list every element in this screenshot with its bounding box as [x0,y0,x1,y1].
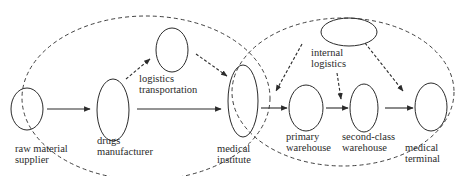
second-class-warehouse-label: second-class warehouse [342,131,395,153]
internal-label-line1: internal [311,47,346,58]
logistics-transportation-label: logistics transportation [139,73,197,95]
internal-logistics-label: internal logistics [311,47,346,69]
primary-label-line2: warehouse [286,142,331,153]
medical-institute-label: medical institute [217,143,251,165]
drugs-label-line1: drugs [97,135,153,146]
institute-label-line2: institute [217,154,251,165]
second-class-warehouse-node [350,84,378,132]
logistics-label-line1: logistics [139,73,197,84]
primary-label-line1: primary [286,131,331,142]
arrow-logistics-to-institute [196,54,227,76]
terminal-label-line1: medical [405,142,440,153]
drugs-label-line2: manufacturer [97,146,153,157]
second-label-line2: warehouse [342,142,395,153]
arrow-internal-to-terminal [365,43,403,91]
logistics-transportation-node [156,28,188,72]
internal-label-line2: logistics [311,58,346,69]
internal-logistics-node [321,18,377,46]
medical-institute-node [228,65,258,137]
raw-label-line1: raw material [15,143,68,154]
arrow-internal-to-second [337,73,341,99]
raw-material-supplier-node [11,88,43,130]
arrow-internal-to-primary [276,44,302,91]
institute-label-line1: medical [217,143,251,154]
primary-warehouse-label: primary warehouse [286,131,331,153]
logistics-label-line2: transportation [139,84,197,95]
raw-material-supplier-label: raw material supplier [15,143,68,165]
drugs-manufacturer-node [97,79,129,141]
second-label-line1: second-class [342,131,395,142]
supply-chain-diagram: raw material supplier drugs manufacturer… [0,0,457,176]
drugs-manufacturer-label: drugs manufacturer [97,135,153,157]
terminal-label-line2: terminal [405,153,440,164]
medical-terminal-node [415,83,447,131]
raw-label-line2: supplier [15,154,68,165]
primary-warehouse-node [289,85,323,131]
medical-terminal-label: medical terminal [405,142,440,164]
